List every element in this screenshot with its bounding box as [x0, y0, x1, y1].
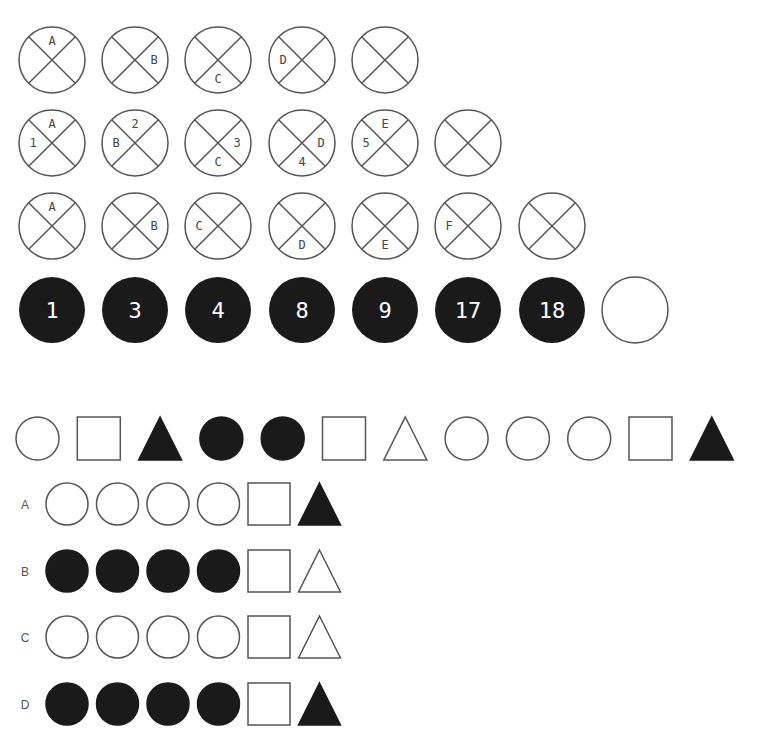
outline-circle-icon: [198, 616, 240, 658]
crossed-circle: A: [19, 27, 85, 93]
segment-label: 1: [29, 136, 36, 150]
outline-triangle-icon: [299, 616, 341, 658]
crossed-circle: E: [352, 193, 418, 259]
filled-triangle-icon: [690, 417, 733, 460]
number-circle: 1: [19, 277, 85, 343]
segment-label: E: [381, 117, 388, 131]
crossed-circle: [435, 110, 501, 176]
option-c[interactable]: C: [21, 616, 341, 658]
outline-circle-icon: [46, 616, 88, 658]
shape-sequence-puzzle: [16, 417, 733, 460]
crossed-circle: 3C: [185, 110, 251, 176]
outline-triangle-icon: [299, 550, 341, 592]
outline-square-icon: [248, 483, 290, 525]
option-label: C: [21, 631, 30, 645]
filled-circle-icon: [200, 417, 243, 460]
outline-square-icon: [323, 417, 366, 460]
outline-circle-icon: [16, 417, 59, 460]
segment-label: D: [279, 53, 286, 67]
segment-label: 3: [233, 136, 240, 150]
number-circle-sequence: 134891718: [19, 277, 668, 343]
outline-circle-icon: [46, 483, 88, 525]
number-circle: 17: [435, 277, 501, 343]
segment-label: B: [150, 219, 157, 233]
segment-label: A: [48, 200, 56, 214]
outline-triangle-icon: [384, 417, 427, 460]
segment-label: C: [195, 219, 202, 233]
number-label: 17: [455, 298, 482, 323]
filled-circle-icon: [97, 683, 139, 725]
number-circle: 3: [102, 277, 168, 343]
crossed-circle: A: [19, 193, 85, 259]
segment-label: 5: [362, 136, 369, 150]
outline-circle-icon: [147, 616, 189, 658]
filled-circle-icon: [147, 550, 189, 592]
outline-square-icon: [248, 616, 290, 658]
filled-circle-icon: [46, 550, 88, 592]
filled-triangle-icon: [299, 683, 341, 725]
segment-label: C: [214, 155, 221, 169]
number-label: 3: [128, 298, 141, 323]
filled-circle-icon: [261, 417, 304, 460]
filled-triangle-icon: [299, 483, 341, 525]
option-a[interactable]: A: [21, 483, 341, 525]
option-d[interactable]: D: [21, 683, 341, 725]
filled-triangle-icon: [139, 417, 182, 460]
crossed-circle: D: [269, 193, 335, 259]
option-label: B: [21, 565, 29, 579]
segment-label: B: [112, 136, 119, 150]
segment-label: A: [48, 117, 56, 131]
crossed-circle: 2B: [102, 110, 168, 176]
segment-label: C: [214, 72, 221, 86]
option-label: D: [21, 698, 30, 712]
filled-circle-icon: [198, 550, 240, 592]
outline-circle-icon: [97, 483, 139, 525]
crossed-circle: B: [102, 193, 168, 259]
number-circle: 8: [269, 277, 335, 343]
crossed-circle: [352, 27, 418, 93]
number-label: 1: [45, 298, 58, 323]
crossed-circle: B: [102, 27, 168, 93]
crossed-circle: C: [185, 193, 251, 259]
outline-square-icon: [248, 683, 290, 725]
segment-label: F: [445, 219, 452, 233]
outline-circle-icon: [147, 483, 189, 525]
outline-circle-icon: [445, 417, 488, 460]
crossed-circle: C: [185, 27, 251, 93]
crossed-circle-puzzle: ABCDA12B3CD4E5ABCDEF: [19, 27, 585, 259]
outline-circle-icon: [198, 483, 240, 525]
outline-square-icon: [629, 417, 672, 460]
crossed-circle: E5: [352, 110, 418, 176]
crossed-circle: D: [269, 27, 335, 93]
filled-circle-icon: [46, 683, 88, 725]
segment-label: 4: [298, 155, 305, 169]
outline-square-icon: [248, 550, 290, 592]
crossed-circle: A1: [19, 110, 85, 176]
puzzle-canvas: ABCDA12B3CD4E5ABCDEF 134891718 ABCD: [0, 0, 759, 731]
number-label: 18: [539, 298, 566, 323]
filled-circle-icon: [198, 683, 240, 725]
outline-circle-icon: [97, 616, 139, 658]
segment-label: B: [150, 53, 157, 67]
blank-answer-circle: [602, 277, 668, 343]
crossed-circle: D4: [269, 110, 335, 176]
outline-circle-icon: [568, 417, 611, 460]
number-label: 9: [378, 298, 391, 323]
segment-label: 2: [131, 117, 138, 131]
segment-label: D: [317, 136, 324, 150]
number-label: 4: [211, 298, 224, 323]
filled-circle-icon: [97, 550, 139, 592]
option-label: A: [21, 498, 29, 512]
segment-label: A: [48, 34, 56, 48]
crossed-circle: F: [435, 193, 501, 259]
filled-circle-icon: [147, 683, 189, 725]
outline-square-icon: [77, 417, 120, 460]
answer-options: ABCD: [21, 483, 341, 725]
number-circle: 18: [519, 277, 585, 343]
segment-label: E: [381, 238, 388, 252]
number-circle: 9: [352, 277, 418, 343]
option-b[interactable]: B: [21, 550, 341, 592]
outline-circle-icon: [506, 417, 549, 460]
number-label: 8: [295, 298, 308, 323]
crossed-circle: [519, 193, 585, 259]
